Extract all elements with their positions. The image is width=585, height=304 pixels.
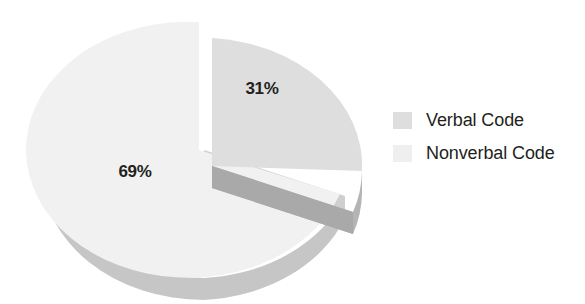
- chart-legend: Verbal Code Nonverbal Code: [393, 104, 583, 170]
- pie-chart-figure: 31% 69% Verbal Code Nonverbal Code: [0, 0, 585, 304]
- chart-plot-area: 31% 69%: [0, 0, 390, 304]
- legend-item-verbal-code[interactable]: Verbal Code: [393, 104, 583, 137]
- pie-chart-graphic: [0, 0, 390, 304]
- verbal-slice-top: [212, 38, 362, 171]
- legend-swatch-verbal-code: [393, 112, 412, 129]
- slice-label-verbal-code: 31%: [245, 79, 278, 99]
- legend-item-nonverbal-code[interactable]: Nonverbal Code: [393, 137, 583, 170]
- legend-label-verbal-code: Verbal Code: [426, 110, 524, 131]
- legend-swatch-nonverbal-code: [393, 145, 412, 162]
- slice-label-nonverbal-code: 69%: [118, 162, 151, 182]
- legend-label-nonverbal-code: Nonverbal Code: [426, 143, 555, 164]
